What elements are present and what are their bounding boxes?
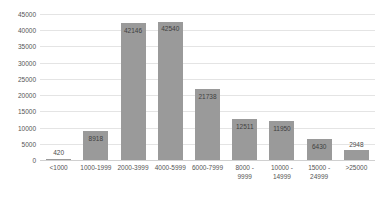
bar-value-label: 42146 <box>124 28 142 35</box>
y-axis-tick-label: 40000 <box>18 27 36 34</box>
y-axis-tick-label: 30000 <box>18 59 36 66</box>
bar-value-label: 12511 <box>236 124 254 131</box>
x-axis-category-label: 2000-3999 <box>112 163 153 172</box>
bar-slot: 21738 <box>195 14 220 160</box>
bar-slot: 420 <box>46 14 71 160</box>
bar-value-label: 2948 <box>349 142 363 149</box>
bar-value-label: 420 <box>53 150 64 157</box>
y-axis-tick-label: 35000 <box>18 43 36 50</box>
x-axis-category-label: >25000 <box>336 163 377 172</box>
y-axis-tick-label: 5000 <box>22 140 36 147</box>
x-axis-category-label: 4000-5999 <box>150 163 191 172</box>
bar-value-label: 8918 <box>89 136 103 143</box>
bar[interactable] <box>121 23 146 160</box>
axis-baseline <box>40 160 375 161</box>
bar-value-label: 42540 <box>161 26 179 33</box>
bar-value-label: 11950 <box>273 126 291 133</box>
bar[interactable] <box>344 150 369 160</box>
bar-value-label: 21738 <box>198 94 216 101</box>
bar[interactable] <box>46 159 71 160</box>
x-axis-category-label: 6000-7999 <box>187 163 228 172</box>
x-axis-category-label: <1000 <box>38 163 79 172</box>
x-axis-category-label: 8000 - 9999 <box>224 163 265 181</box>
bar-slot: 8918 <box>83 14 108 160</box>
bar-chart: 0500010000150002000025000300003500040000… <box>0 0 390 198</box>
bars-layer: 4208918421464254021738125111195064302948 <box>40 14 375 160</box>
x-axis-category-label: 15000 - 24999 <box>299 163 340 181</box>
x-axis-category-label: 10000 - 14999 <box>261 163 302 181</box>
y-axis-tick-label: 45000 <box>18 11 36 18</box>
bar-slot: 2948 <box>344 14 369 160</box>
bar-slot: 6430 <box>307 14 332 160</box>
y-axis-tick-labels: 0500010000150002000025000300003500040000… <box>0 14 36 160</box>
y-axis-tick-label: 15000 <box>18 108 36 115</box>
bar-slot: 12511 <box>232 14 257 160</box>
y-axis-tick-label: 20000 <box>18 92 36 99</box>
y-axis-tick-label: 25000 <box>18 75 36 82</box>
y-axis-tick-label: 10000 <box>18 124 36 131</box>
bar[interactable] <box>158 22 183 160</box>
bar-slot: 11950 <box>269 14 294 160</box>
bar-slot: 42146 <box>121 14 146 160</box>
y-axis-tick-label: 0 <box>32 157 36 164</box>
bar-slot: 42540 <box>158 14 183 160</box>
x-axis-category-label: 1000-1999 <box>75 163 116 172</box>
x-axis-category-labels: <10001000-19992000-39994000-59996000-799… <box>40 163 375 197</box>
bar-value-label: 6430 <box>312 144 326 151</box>
